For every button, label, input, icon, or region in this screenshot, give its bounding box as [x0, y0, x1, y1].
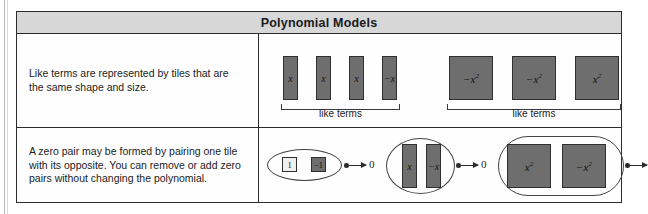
zero-arrow-x-squared: [627, 165, 647, 166]
like-terms-description-cell: Like terms are represented by tiles that…: [17, 34, 258, 127]
tile-x-squared: x2: [575, 56, 619, 100]
tile-x-2: x: [316, 56, 331, 100]
tile-negative-x-squared-2: −x2: [512, 56, 556, 100]
table-row: Like terms are represented by tiles that…: [17, 34, 621, 127]
like-terms-figure-cell: x x x −x like terms −x2 −x2 x2: [259, 34, 621, 127]
tile-negative-x: −x: [382, 56, 397, 100]
tile-label: −1: [314, 160, 323, 170]
table-header-band: Polynomial Models: [17, 12, 621, 34]
tile-label: x: [321, 73, 325, 84]
tile-label: −x: [384, 73, 395, 84]
like-terms-description: Like terms are represented by tiles that…: [29, 67, 246, 94]
tile-label: x: [288, 73, 292, 84]
tile-x: x: [402, 144, 417, 188]
tile-label: −x2: [526, 72, 542, 85]
zero-pair-description: A zero pair may be formed by pairing one…: [29, 145, 246, 186]
like-terms-label-x-squared: like terms: [447, 108, 621, 119]
page-edge-line-secondary: [7, 0, 8, 214]
page-title: Polynomial Models: [261, 16, 378, 30]
zero-pair-ellipse-x: [386, 138, 455, 194]
like-terms-label-x: like terms: [281, 108, 400, 119]
table-row: A zero pair may be formed by pairing one…: [17, 127, 621, 203]
zero-result-unit: 0: [369, 158, 375, 170]
tile-label: x: [407, 161, 411, 172]
tile-negative-one: −1: [311, 157, 326, 172]
tile-negative-x-squared-1: −x2: [449, 56, 493, 100]
tile-negative-x: −x: [426, 144, 441, 188]
tile-x-squared: x2: [507, 144, 551, 188]
tile-label: −x: [428, 161, 439, 172]
tile-x-1: x: [283, 56, 298, 100]
zero-arrow-x: [458, 165, 478, 166]
page-edge-line: [4, 0, 5, 214]
tile-negative-x-squared: −x2: [562, 144, 606, 188]
zero-pair-description-cell: A zero pair may be formed by pairing one…: [17, 128, 258, 203]
zero-pair-figure-cell: 1 −1 0 x −x 0 x2 −x2: [259, 128, 621, 203]
tile-label: x2: [593, 72, 601, 85]
zero-pair-ellipse-unit: [267, 149, 342, 181]
tile-label: −x2: [463, 72, 479, 85]
tile-label: x2: [525, 160, 533, 173]
zero-arrow-unit: [346, 165, 366, 166]
tile-label: x: [354, 73, 358, 84]
tile-label: −x2: [576, 160, 592, 173]
tile-positive-one: 1: [282, 157, 297, 172]
tile-x-3: x: [349, 56, 364, 100]
polynomial-models-table: Polynomial Models Like terms are represe…: [16, 11, 622, 203]
tile-label: 1: [287, 160, 291, 170]
zero-result-x: 0: [481, 158, 487, 170]
